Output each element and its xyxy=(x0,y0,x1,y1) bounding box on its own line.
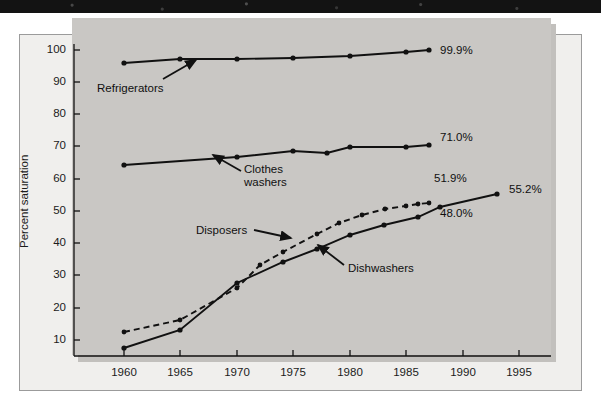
clothes-washers-line xyxy=(121,142,431,167)
chart-vector-layer xyxy=(0,0,601,415)
leader-arrow-refrigerators xyxy=(163,60,196,79)
leader-arrow-disposers xyxy=(254,230,291,238)
refrigerators-line xyxy=(121,47,431,65)
x-axis-ticks xyxy=(124,350,519,356)
y-axis-ticks xyxy=(74,50,80,340)
axis-lines xyxy=(74,44,551,356)
screenshot-root: 100 90 80 70 60 50 40 30 20 10 Percent s… xyxy=(0,0,601,415)
leader-arrow-dishwashers xyxy=(318,245,344,265)
dishwashers-line xyxy=(121,191,499,350)
disposers-line xyxy=(122,201,432,335)
